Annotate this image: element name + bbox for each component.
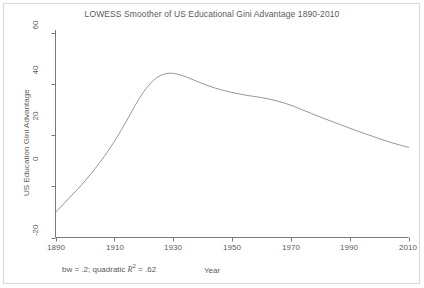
x-axis-ticks [57,238,410,242]
axis-lines [56,30,409,238]
chart-container: LOWESS Smoother of US Educational Gini A… [0,0,424,288]
lowess-curve [56,73,409,212]
plot-area [0,0,424,288]
y-axis-ticks [52,34,56,239]
